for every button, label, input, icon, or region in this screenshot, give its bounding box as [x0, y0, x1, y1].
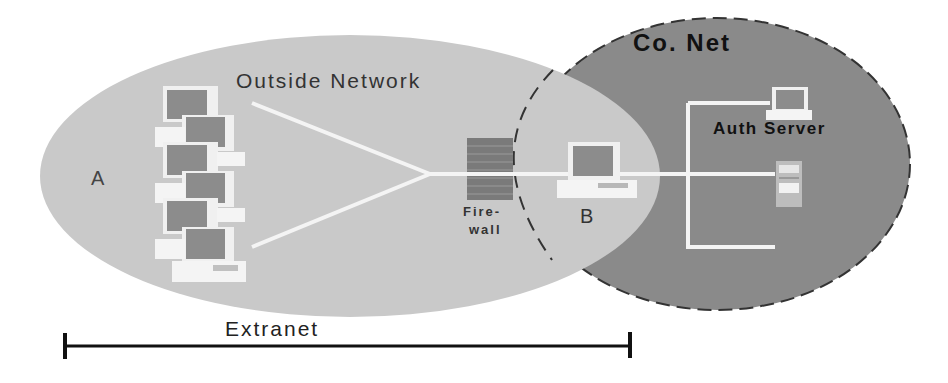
client-workstation-group — [155, 86, 246, 282]
outside-network-label: Outside Network — [236, 70, 421, 91]
laptop-icon — [766, 87, 812, 120]
node-a-label: A — [91, 168, 104, 188]
network-diagram-canvas — [0, 0, 948, 383]
auth-server-tower-icon — [776, 161, 802, 207]
firewall-label: Fire- wall — [463, 203, 502, 239]
extranet-label: Extranet — [225, 318, 319, 339]
firewall-icon — [467, 138, 513, 200]
company-network-label: Co. Net — [633, 31, 731, 55]
node-b-label: B — [580, 206, 593, 226]
firewall-label-line2: wall — [463, 221, 502, 239]
auth-server-label: Auth Server — [713, 120, 826, 137]
firewall-label-line1: Fire- — [463, 203, 502, 221]
extranet-span-bar — [65, 332, 630, 359]
